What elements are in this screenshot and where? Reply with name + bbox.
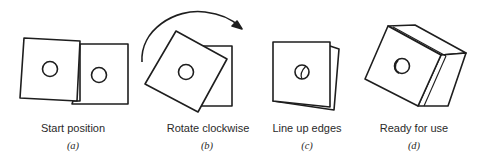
diagram-figure — [0, 0, 482, 158]
hole — [179, 65, 194, 80]
caption-d: Ready for use — [369, 122, 459, 134]
caption-c: Line up edges — [262, 122, 352, 134]
label-a: (a) — [58, 140, 88, 151]
label-b: (b) — [192, 140, 222, 151]
panel-b-drawing — [142, 12, 242, 112]
panel-a-drawing — [20, 38, 128, 104]
caption-a: Start position — [28, 122, 118, 134]
hole-back — [92, 68, 107, 83]
panel-d-drawing — [365, 25, 466, 106]
caption-b: Rotate clockwise — [160, 122, 256, 134]
label-c: (c) — [292, 140, 322, 151]
hole-front — [43, 62, 58, 77]
label-d: (d) — [399, 140, 429, 151]
panel-c-drawing — [273, 42, 339, 110]
